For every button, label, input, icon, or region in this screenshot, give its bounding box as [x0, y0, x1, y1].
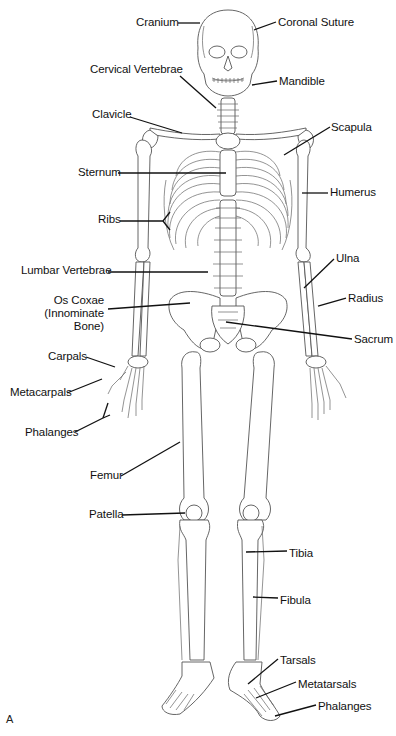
- label-cranium: Cranium: [136, 16, 179, 29]
- leader-ulna: [304, 259, 334, 288]
- leader-fork-ribs: [163, 212, 170, 221]
- leader-tibia: [246, 551, 287, 552]
- label-phalanges-hand: Phalanges: [25, 426, 78, 439]
- label-radius: Radius: [348, 292, 383, 305]
- leader-os-coxae: [108, 303, 190, 309]
- leader-sacrum: [226, 322, 352, 339]
- label-tibia: Tibia: [289, 547, 313, 560]
- panel-letter: A: [6, 713, 13, 725]
- label-coronal-suture: Coronal Suture: [278, 16, 354, 29]
- leader-phalanges-foot: [275, 705, 316, 716]
- label-metacarpals: Metacarpals: [10, 386, 72, 399]
- label-os-coxae: Os Coxae(InnominateBone): [24, 294, 104, 333]
- label-lumbar-vertebrae: Lumbar Vertebrae: [21, 264, 111, 277]
- label-scapula: Scapula: [331, 121, 372, 134]
- label-ulna: Ulna: [336, 252, 359, 265]
- leader-metacarpals: [67, 379, 102, 393]
- leader-fibula: [253, 597, 278, 598]
- label-mandible: Mandible: [279, 75, 325, 88]
- leader-clavicle: [130, 117, 182, 133]
- leader-metatarsals: [256, 682, 296, 698]
- label-clavicle: Clavicle: [92, 108, 131, 121]
- leader-carpals: [86, 357, 115, 367]
- label-sacrum: Sacrum: [354, 333, 393, 346]
- label-cervical-vertebrae: Cervical Vertebrae: [90, 63, 183, 76]
- label-humerus: Humerus: [330, 186, 376, 199]
- leader-cervical-vertebrae: [180, 76, 216, 108]
- leader-mandible: [252, 81, 277, 85]
- leader-phalanges-hand: [75, 418, 103, 432]
- label-fibula: Fibula: [280, 594, 311, 607]
- leader-lines: [0, 0, 396, 736]
- leader-patella: [122, 513, 185, 515]
- label-femur: Femur: [90, 469, 123, 482]
- label-patella: Patella: [89, 508, 123, 521]
- label-phalanges-foot: Phalanges: [318, 700, 371, 713]
- leader-fork-ribs: [163, 221, 170, 230]
- label-tarsals: Tarsals: [280, 654, 316, 667]
- label-sternum: Sternum: [78, 166, 121, 179]
- leader-femur: [121, 442, 180, 476]
- leader-tarsals: [248, 659, 278, 684]
- label-metatarsals: Metatarsals: [298, 678, 356, 691]
- leader-coronal-suture: [254, 22, 276, 30]
- label-ribs: Ribs: [98, 213, 121, 226]
- leader-scapula: [284, 127, 330, 155]
- leader-radius: [318, 298, 346, 306]
- label-carpals: Carpals: [48, 350, 87, 363]
